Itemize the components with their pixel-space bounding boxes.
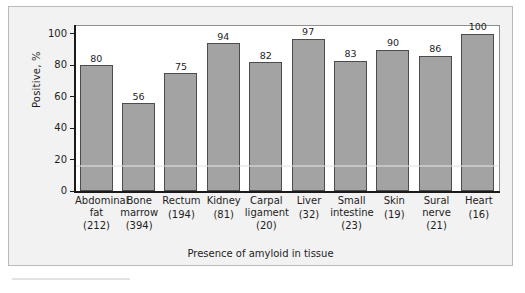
bar-value-label: 82 bbox=[260, 51, 272, 61]
bar-slot: 86 bbox=[419, 26, 452, 191]
y-axis-tick: 20 bbox=[54, 155, 75, 165]
bar[interactable] bbox=[249, 62, 282, 191]
bar-value-label: 94 bbox=[217, 32, 229, 42]
x-axis-category-label: Smallintestine(23) bbox=[330, 195, 373, 232]
y-axis-tick-label: 80 bbox=[54, 60, 70, 70]
y-axis-tick-label: 20 bbox=[54, 155, 70, 165]
x-axis-category-label: Heart(16) bbox=[458, 195, 500, 232]
x-axis-category-label: Abdominalfat(212) bbox=[75, 195, 118, 232]
category-count: (81) bbox=[203, 209, 245, 221]
category-name-line: Heart bbox=[458, 195, 500, 207]
bar[interactable] bbox=[292, 39, 325, 191]
bar-value-label: 97 bbox=[302, 27, 314, 37]
x-axis-category-label: Liver(32) bbox=[288, 195, 330, 232]
category-name-line: Kidney bbox=[203, 195, 245, 207]
category-name-line: Skin bbox=[373, 195, 415, 207]
x-axis-category-label: Skin(19) bbox=[373, 195, 415, 232]
x-axis-category-label: Rectum(194) bbox=[160, 195, 202, 232]
y-axis-tick-label: 60 bbox=[54, 92, 70, 102]
y-axis-tick: 100 bbox=[48, 29, 75, 39]
bar[interactable] bbox=[461, 34, 494, 191]
bar-value-label: 80 bbox=[90, 54, 102, 64]
bar-slot: 75 bbox=[164, 26, 197, 191]
category-count: (32) bbox=[288, 209, 330, 221]
category-name-line: Bone bbox=[118, 195, 160, 207]
category-count: (21) bbox=[415, 220, 457, 232]
category-name-line: Carpal bbox=[245, 195, 288, 207]
y-axis-title: Positive, % bbox=[31, 51, 42, 108]
bar-slot: 97 bbox=[292, 26, 325, 191]
bar[interactable] bbox=[164, 73, 197, 191]
category-name-line: Rectum bbox=[160, 195, 202, 207]
bar[interactable] bbox=[122, 103, 155, 191]
bar-value-label: 90 bbox=[387, 38, 399, 48]
category-name-line: marrow bbox=[118, 207, 160, 219]
category-count: (23) bbox=[330, 220, 373, 232]
x-axis-category-labels: Abdominalfat(212)Bonemarrow(394)Rectum(1… bbox=[75, 195, 500, 232]
bar[interactable] bbox=[80, 65, 113, 191]
category-count: (20) bbox=[245, 220, 288, 232]
bar-value-label: 75 bbox=[175, 62, 187, 72]
y-axis-tick-label: 40 bbox=[54, 123, 70, 133]
x-axis-title: Presence of amyloid in tissue bbox=[9, 248, 512, 259]
category-count: (394) bbox=[118, 220, 160, 232]
category-name-line: ligament bbox=[245, 207, 288, 219]
bar-slot: 100 bbox=[461, 26, 494, 191]
bar-slot: 90 bbox=[376, 26, 409, 191]
bar[interactable] bbox=[376, 50, 409, 191]
y-axis-tick-label: 0 bbox=[61, 186, 70, 196]
category-count: (212) bbox=[75, 220, 118, 232]
category-count: (194) bbox=[160, 209, 202, 221]
bar-value-label: 86 bbox=[429, 44, 441, 54]
category-name-line: Liver bbox=[288, 195, 330, 207]
bar[interactable] bbox=[334, 61, 367, 191]
scan-artifact-line bbox=[12, 278, 130, 280]
bar-series: 805675948297839086100 bbox=[75, 26, 499, 191]
category-name-line: Sural bbox=[415, 195, 457, 207]
category-count: (16) bbox=[458, 209, 500, 221]
bar-value-label: 83 bbox=[344, 49, 356, 59]
bar[interactable] bbox=[207, 43, 240, 191]
bar-slot: 94 bbox=[207, 26, 240, 191]
plot-area: 020406080100 805675948297839086100 bbox=[75, 25, 500, 191]
category-name-line: intestine bbox=[330, 207, 373, 219]
y-axis-tick: 40 bbox=[54, 123, 75, 133]
x-axis-category-label: Suralnerve(21) bbox=[415, 195, 457, 232]
y-axis-tick-label: 100 bbox=[48, 29, 70, 39]
bar-value-label: 100 bbox=[469, 22, 487, 32]
y-axis-tick: 60 bbox=[54, 92, 75, 102]
x-axis-category-label: Bonemarrow(394) bbox=[118, 195, 160, 232]
category-count: (19) bbox=[373, 209, 415, 221]
category-name-line: Abdominal bbox=[75, 195, 118, 207]
bar-slot: 83 bbox=[334, 26, 367, 191]
bar-value-label: 56 bbox=[133, 92, 145, 102]
category-name-line: fat bbox=[75, 207, 118, 219]
bar-slot: 82 bbox=[249, 26, 282, 191]
category-name-line: Small bbox=[330, 195, 373, 207]
x-axis-line bbox=[74, 191, 500, 193]
x-axis-category-label: Kidney(81) bbox=[203, 195, 245, 232]
y-axis-line bbox=[74, 25, 76, 193]
y-axis-tick: 80 bbox=[54, 60, 75, 70]
figure-panel: Positive, % 020406080100 805675948297839… bbox=[8, 6, 513, 266]
bar-slot: 80 bbox=[80, 26, 113, 191]
y-axis-tick: 0 bbox=[61, 186, 75, 196]
category-name-line: nerve bbox=[415, 207, 457, 219]
bar-slot: 56 bbox=[122, 26, 155, 191]
x-axis-category-label: Carpalligament(20) bbox=[245, 195, 288, 232]
bar[interactable] bbox=[419, 56, 452, 191]
